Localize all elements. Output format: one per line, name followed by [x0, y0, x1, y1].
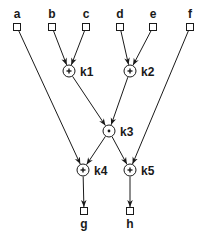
operation-label: k1 [80, 65, 94, 79]
operation-node-k4: k4 [77, 164, 108, 178]
edge-k2-to-k3 [111, 77, 128, 125]
edge-a-to-k4 [19, 31, 80, 164]
input-square-icon [150, 24, 157, 31]
dataflow-diagram: abcdefghk1k2k3k4k5 [0, 0, 208, 244]
operation-label: k5 [141, 164, 155, 178]
input-label: a [14, 7, 21, 21]
input-label: d [116, 7, 123, 21]
input-label: f [188, 7, 193, 21]
input-node-e: e [150, 7, 157, 31]
operation-node-k3: k3 [103, 125, 134, 139]
input-square-icon [187, 24, 194, 31]
operation-label: k2 [141, 65, 155, 79]
operation-label: k3 [120, 125, 134, 139]
operation-node-k2: k2 [124, 65, 155, 79]
input-node-a: a [14, 7, 21, 31]
edge-c-to-k1 [71, 31, 84, 65]
output-label: h [126, 217, 133, 231]
input-label: b [48, 7, 55, 21]
input-label: c [83, 7, 90, 21]
input-node-c: c [83, 7, 90, 31]
input-square-icon [83, 24, 90, 31]
edge-b-to-k1 [54, 31, 67, 65]
dot-glyph [108, 130, 111, 133]
edge-d-to-k2 [121, 31, 129, 65]
edge-k3-to-k4 [87, 136, 106, 164]
input-square-icon [49, 24, 56, 31]
operation-label: k4 [94, 164, 108, 178]
edge-k3-to-k5 [112, 137, 127, 165]
edge-e-to-k2 [133, 31, 151, 65]
input-label: e [150, 7, 157, 21]
edge-k1-to-k3 [73, 76, 106, 125]
edge-k4-to-g [83, 176, 84, 207]
output-square-icon [127, 208, 134, 215]
edges-layer [19, 31, 189, 207]
input-square-icon [117, 24, 124, 31]
input-node-b: b [48, 7, 55, 31]
input-square-icon [14, 24, 21, 31]
output-node-h: h [126, 208, 133, 232]
input-node-d: d [116, 7, 123, 31]
operation-node-k1: k1 [63, 65, 94, 79]
output-label: g [80, 217, 87, 231]
input-node-f: f [187, 7, 194, 31]
output-square-icon [81, 208, 88, 215]
operation-node-k5: k5 [124, 164, 155, 178]
output-node-g: g [80, 208, 87, 232]
nodes-layer: abcdefghk1k2k3k4k5 [14, 7, 194, 231]
